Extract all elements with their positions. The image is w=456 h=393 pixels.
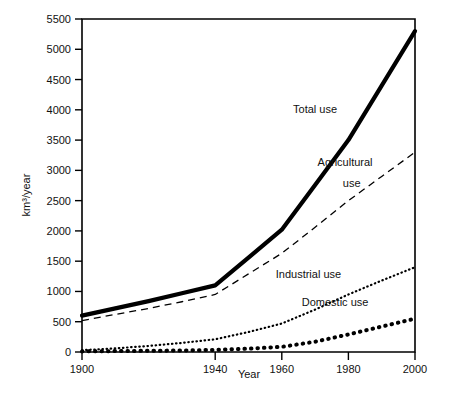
x-tick-label: 1980 [336,363,360,375]
y-tick-label: 5000 [47,43,71,55]
y-axis-tick-group [75,19,82,352]
y-tick-label: 1000 [47,285,71,297]
x-axis-tick-group [82,352,415,360]
y-axis-tick-labels: 0500100015002000250030003500400045005000… [47,13,71,358]
y-tick-label: 4000 [47,104,71,116]
x-tick-label: 1960 [270,363,294,375]
series-annotation: Total use [293,103,337,115]
y-tick-label: 2000 [47,225,71,237]
chart-canvas: 0500100015002000250030003500400045005000… [0,0,456,393]
y-tick-label: 0 [65,346,71,358]
y-tick-label: 1500 [47,255,71,267]
y-tick-label: 3500 [47,134,71,146]
x-tick-label: 1900 [70,363,94,375]
y-tick-label: 5500 [47,13,71,25]
water-use-chart-figure: 0500100015002000250030003500400045005000… [0,0,456,393]
series-annotation: Domestic use [302,296,369,308]
x-tick-label: 1940 [203,363,227,375]
series-annotation: use [343,177,361,189]
series-line-industrial-use [82,267,415,350]
series-annotation-group: Total useAgriculturaluseIndustrial useDo… [276,103,373,308]
series-annotation: Agricultural [318,156,373,168]
series-line-total-use [82,31,415,316]
y-axis-title: km³/year [20,173,32,216]
y-tick-label: 2500 [47,195,71,207]
series-annotation: Industrial use [276,268,341,280]
y-tick-label: 3000 [47,164,71,176]
x-axis-title: Year [238,368,261,380]
x-tick-label: 2000 [403,363,427,375]
y-tick-label: 4500 [47,74,71,86]
y-tick-label: 500 [53,316,71,328]
